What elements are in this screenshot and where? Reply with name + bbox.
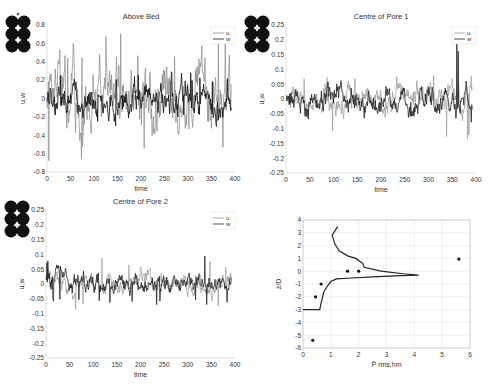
y-tick-label: -1 [295, 280, 301, 287]
chart-panel-3: 050100150200250300350400-0.25-0.2-0.15-0… [5, 197, 241, 378]
x-tick-label: 1 [329, 351, 333, 358]
x-tick-label: 2 [357, 351, 361, 358]
x-tick-label: 50 [306, 176, 314, 183]
y-tick-label: -0.25 [29, 354, 44, 361]
chart-title: Centre of Pore 1 [353, 12, 408, 21]
y-tick-label: -3 [295, 306, 301, 313]
y-tick-label: 3 [297, 229, 301, 236]
y-axis-label: z/D [275, 279, 282, 290]
x-axis-label: time [374, 186, 387, 193]
bed-geometry-icon [5, 201, 30, 238]
y-tick-label: 0 [297, 268, 301, 275]
x-axis-label: time [134, 185, 147, 192]
x-tick-label: 6 [468, 351, 472, 358]
y-tick-label: 0.4 [36, 58, 45, 65]
y-tick-label: 0.2 [35, 221, 44, 228]
data-point [457, 257, 460, 260]
x-tick-label: 300 [423, 176, 434, 183]
data-point [319, 282, 322, 285]
y-axis-label: u,w [18, 278, 25, 290]
x-tick-label: 300 [183, 175, 194, 182]
x-tick-label: 150 [112, 175, 123, 182]
y-tick-label: 0.8 [36, 21, 45, 28]
y-tick-label: -2 [295, 293, 301, 300]
bed-geometry-icon [6, 13, 31, 53]
profile-line [303, 226, 419, 309]
x-tick-label: 100 [328, 176, 339, 183]
legend [452, 27, 476, 44]
x-tick-label: 200 [136, 175, 147, 182]
x-tick-label: 400 [230, 361, 241, 368]
x-tick-label: 0 [44, 361, 48, 368]
y-tick-label: 1 [297, 255, 301, 262]
y-axis-label: u,w [258, 93, 265, 105]
legend [211, 212, 235, 229]
y-tick-label: 0.15 [271, 51, 284, 58]
legend-label-w: w [225, 36, 231, 42]
y-tick-label: 2 [297, 242, 301, 249]
y-tick-label: 0.2 [36, 76, 45, 83]
data-point [311, 339, 314, 342]
x-tick-label: 4 [413, 351, 417, 358]
y-tick-label: 0.6 [36, 40, 45, 47]
y-tick-label: 0.1 [35, 251, 44, 258]
y-tick-label: -0.1 [273, 125, 285, 132]
bed-geometry-icon [245, 16, 270, 53]
legend-label-w: w [225, 221, 231, 227]
y-tick-label: -0.1 [33, 310, 45, 317]
y-tick-label: -6 [295, 344, 301, 351]
x-tick-label: 150 [111, 361, 122, 368]
y-tick-label: -0.05 [29, 295, 44, 302]
y-tick-label: 4 [297, 216, 301, 223]
chart-panel-1: 050100150200250300350400-0.8-0.6-0.4-0.2… [6, 12, 241, 192]
y-tick-label: -0.8 [34, 168, 46, 175]
x-tick-label: 100 [89, 175, 100, 182]
x-tick-label: 250 [399, 176, 410, 183]
x-tick-label: 200 [376, 176, 387, 183]
x-tick-label: 350 [447, 176, 458, 183]
x-tick-label: 400 [471, 176, 482, 183]
x-tick-label: 350 [206, 175, 217, 182]
x-tick-label: 250 [159, 361, 170, 368]
data-point [357, 270, 360, 273]
series-w [286, 36, 472, 122]
x-tick-label: 250 [159, 175, 170, 182]
y-tick-label: 0 [40, 280, 44, 287]
x-axis-label: time [134, 371, 147, 378]
y-tick-label: 0.05 [271, 81, 284, 88]
x-tick-label: 50 [67, 175, 75, 182]
y-axis-label: u,w [19, 92, 26, 104]
x-tick-label: 50 [66, 361, 74, 368]
x-tick-label: 200 [135, 361, 146, 368]
y-tick-label: -0.6 [34, 150, 46, 157]
x-tick-label: 150 [352, 176, 363, 183]
y-tick-label: -4 [295, 319, 301, 326]
x-tick-label: 0 [284, 176, 288, 183]
x-axis-label: P̄ rms,hm [372, 361, 402, 368]
figure: 050100150200250300350400-0.8-0.6-0.4-0.2… [0, 0, 489, 390]
y-tick-label: 0 [41, 95, 45, 102]
y-tick-label: -0.4 [34, 132, 46, 139]
y-tick-label: 0.1 [275, 66, 284, 73]
y-tick-label: -0.25 [269, 169, 284, 176]
x-tick-label: 350 [206, 361, 217, 368]
y-tick-label: 0.25 [271, 21, 284, 28]
y-tick-label: -5 [295, 332, 301, 339]
y-tick-label: -0.2 [273, 155, 285, 162]
x-tick-label: 0 [301, 351, 305, 358]
data-point [314, 295, 317, 298]
y-tick-label: -0.2 [34, 113, 46, 120]
x-tick-label: 3 [385, 351, 389, 358]
y-tick-label: -0.05 [269, 110, 284, 117]
chart-panel-2: 050100150200250300350400-0.25-0.2-0.15-0… [245, 12, 482, 193]
y-tick-label: -0.15 [269, 140, 284, 147]
chart-title: Above Bed [123, 12, 160, 21]
x-tick-label: 300 [182, 361, 193, 368]
y-tick-label: 0.25 [31, 206, 44, 213]
y-tick-label: -0.15 [29, 325, 44, 332]
x-tick-label: 5 [440, 351, 444, 358]
y-tick-label: -0.2 [33, 340, 45, 347]
y-tick-label: 0.2 [275, 36, 284, 43]
legend [211, 27, 235, 44]
series-u [46, 258, 231, 309]
